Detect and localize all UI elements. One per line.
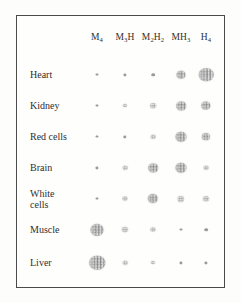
column-header-h4: H4	[201, 32, 211, 42]
spot-cell	[148, 194, 158, 204]
isozyme-spot-liver-m2h2	[151, 261, 155, 265]
spot-cell	[151, 261, 155, 265]
spot-cell	[176, 101, 186, 110]
isozyme-spot-white-cells-h4	[203, 196, 209, 202]
spot-cell	[123, 73, 126, 76]
isozyme-spot-kidney-mh3	[176, 101, 186, 110]
isozyme-spot-brain-h4	[204, 165, 209, 170]
isozyme-spot-red-cells-m2h2	[151, 134, 156, 138]
spot-cell	[203, 196, 209, 202]
isozyme-spot-muscle-m2h2	[150, 227, 155, 232]
row-label-white-cells: White cells	[30, 187, 54, 210]
spot-cell	[122, 196, 127, 201]
spot-cell	[204, 165, 209, 170]
isozyme-spot-heart-m3h	[123, 73, 126, 76]
table-row: Muscle	[17, 214, 224, 245]
isozyme-spot-heart-m2h2	[151, 73, 155, 76]
spot-cell	[177, 70, 186, 78]
isozyme-spot-red-cells-h4	[202, 133, 210, 141]
spot-cell	[123, 135, 126, 138]
spot-cell	[123, 104, 127, 108]
isozyme-spot-brain-m2h2	[148, 163, 158, 172]
column-header-m2h2: M2H2	[142, 32, 164, 42]
table-row: White cells	[17, 183, 224, 214]
isozyme-spot-kidney-m4	[96, 104, 99, 107]
isozyme-spot-brain-m4	[95, 166, 98, 169]
isozyme-spot-muscle-m3h	[122, 227, 128, 233]
table-row: Heart	[17, 59, 224, 90]
isozyme-spot-liver-mh3	[179, 261, 182, 264]
column-header-m4: M4	[91, 32, 103, 42]
spot-cell	[176, 162, 187, 172]
row-label-kidney: Kidney	[30, 100, 59, 112]
isozyme-spot-liver-m4	[89, 255, 105, 270]
spot-cell	[89, 255, 105, 270]
isozyme-spot-kidney-m3h	[123, 104, 127, 108]
spot-cell	[204, 261, 207, 264]
isozyme-spot-white-cells-mh3	[178, 195, 184, 201]
spot-cell	[96, 197, 99, 200]
spot-cell	[122, 227, 128, 233]
isozyme-spot-heart-m4	[96, 73, 99, 76]
spot-cell	[150, 103, 156, 108]
isozyme-spot-heart-h4	[199, 68, 214, 82]
isozyme-spot-red-cells-m3h	[123, 135, 126, 138]
spot-cell	[204, 228, 208, 231]
spot-cell	[202, 133, 210, 141]
spot-cell	[199, 68, 214, 82]
isozyme-spot-red-cells-m4	[96, 135, 99, 138]
spot-cell	[151, 73, 155, 76]
isozyme-spot-brain-m3h	[123, 165, 128, 169]
isozyme-spot-liver-h4	[204, 261, 207, 264]
spot-cell	[96, 135, 99, 138]
spot-cell	[123, 260, 128, 264]
spot-cell	[178, 195, 184, 201]
row-label-muscle: Muscle	[30, 224, 59, 236]
column-header-mh3: MH3	[172, 32, 191, 42]
spot-cell	[150, 227, 155, 232]
isozyme-spot-white-cells-m2h2	[148, 194, 158, 204]
spot-cell	[179, 261, 182, 264]
isozyme-spot-red-cells-mh3	[176, 131, 187, 141]
isozyme-spot-muscle-h4	[204, 228, 208, 231]
isozyme-spot-white-cells-m3h	[122, 196, 127, 201]
figure-frame: M4M3HM2H2MH3H4 HeartKidneyRed cellsBrain…	[16, 15, 225, 288]
isozyme-spot-brain-mh3	[176, 162, 187, 172]
spot-cell	[180, 228, 183, 231]
isozyme-spot-kidney-h4	[201, 101, 210, 110]
spot-cell	[96, 73, 99, 76]
table-row: Kidney	[17, 90, 224, 121]
row-label-liver: Liver	[30, 257, 52, 269]
row-label-red-cells: Red cells	[30, 131, 67, 143]
table-row: Brain	[17, 152, 224, 183]
spot-cell	[91, 223, 104, 235]
spot-cell	[201, 101, 210, 110]
table-row: Liver	[17, 247, 224, 278]
spot-cell	[123, 165, 128, 169]
isozyme-spot-muscle-m4	[91, 223, 104, 235]
row-label-heart: Heart	[30, 69, 52, 81]
row-label-brain: Brain	[30, 162, 52, 174]
ldh-isozyme-figure: M4M3HM2H2MH3H4 HeartKidneyRed cellsBrain…	[0, 0, 241, 303]
column-header-row: M4M3HM2H2MH3H4	[17, 32, 224, 50]
column-header-m3h: M3H	[116, 32, 135, 42]
spot-cell	[148, 163, 158, 172]
isozyme-spot-kidney-m2h2	[150, 103, 156, 108]
isozyme-spot-muscle-mh3	[180, 228, 183, 231]
spot-cell	[151, 134, 156, 138]
isozyme-spot-heart-mh3	[177, 70, 186, 78]
spot-cell	[95, 166, 98, 169]
spot-cell	[96, 104, 99, 107]
spot-cell	[176, 131, 187, 141]
table-row: Red cells	[17, 121, 224, 152]
isozyme-spot-white-cells-m4	[96, 197, 99, 200]
isozyme-spot-liver-m3h	[123, 260, 128, 264]
